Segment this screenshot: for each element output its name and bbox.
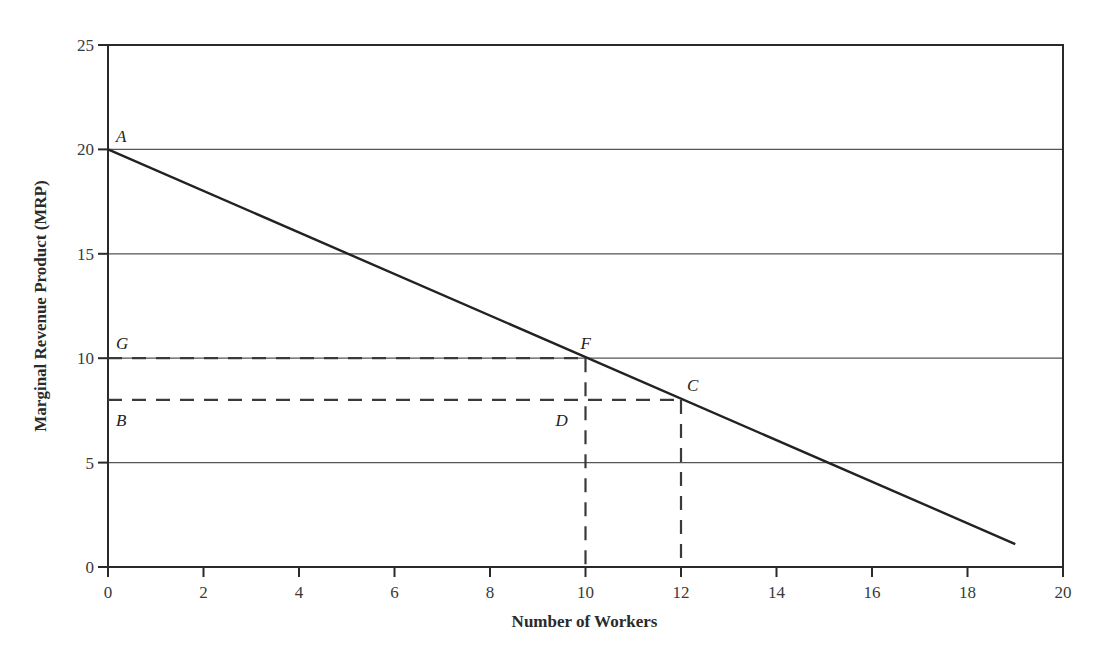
y-axis-title: Marginal Revenue Product (MRP) xyxy=(31,180,50,431)
x-tick-label: 2 xyxy=(199,583,208,602)
x-tick-label: 14 xyxy=(768,583,786,602)
x-tick-label: 0 xyxy=(104,583,113,602)
y-tick-label: 5 xyxy=(86,454,95,473)
x-tick-label: 16 xyxy=(864,583,881,602)
x-tick-label: 20 xyxy=(1055,583,1072,602)
x-tick-label: 10 xyxy=(577,583,594,602)
point-label-g: G xyxy=(116,334,128,353)
y-tick-label: 20 xyxy=(77,140,94,159)
point-label-f: F xyxy=(580,334,592,353)
x-tick-label: 6 xyxy=(390,583,399,602)
point-label-d: D xyxy=(555,411,569,430)
point-label-a: A xyxy=(115,127,127,146)
x-tick-label: 12 xyxy=(673,583,690,602)
point-label-c: C xyxy=(687,376,699,395)
y-tick-label: 0 xyxy=(86,558,95,577)
y-tick-label: 15 xyxy=(77,245,94,264)
mrp-chart: 051015202502468101214161820AGFBCDNumber … xyxy=(0,0,1104,656)
point-label-b: B xyxy=(116,411,127,430)
y-tick-label: 10 xyxy=(77,349,94,368)
x-tick-label: 4 xyxy=(295,583,304,602)
x-tick-label: 18 xyxy=(959,583,976,602)
y-tick-label: 25 xyxy=(77,36,94,55)
x-tick-label: 8 xyxy=(486,583,495,602)
mrp-line xyxy=(108,149,1015,544)
x-axis-title: Number of Workers xyxy=(512,612,658,631)
